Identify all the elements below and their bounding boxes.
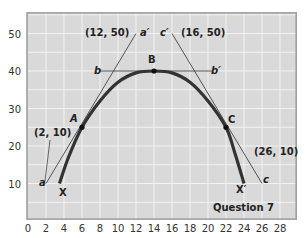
- label-a: a: [39, 177, 46, 188]
- x-tick-label: 2: [43, 223, 49, 234]
- coord-label-a: (2, 10): [34, 127, 71, 138]
- label-C: C: [228, 114, 235, 125]
- chart: 0246810121416182022242628 1020304050 (12…: [0, 0, 307, 238]
- y-axis-ticks: 1020304050: [8, 29, 21, 190]
- label-b-prime: b′: [211, 65, 221, 76]
- x-tick-label: 28: [274, 223, 287, 234]
- x-tick-label: 4: [61, 223, 67, 234]
- y-tick-label: 50: [8, 29, 21, 40]
- y-tick-label: 40: [8, 66, 21, 77]
- x-tick-label: 14: [148, 223, 161, 234]
- point-A: [79, 125, 84, 130]
- label-a-prime: a′: [140, 27, 150, 38]
- x-tick-label: 8: [97, 223, 103, 234]
- x-tick-label: 20: [202, 223, 215, 234]
- plot-area: [27, 13, 296, 219]
- coord-label-a-prime: (12, 50): [85, 27, 129, 38]
- y-tick-label: 10: [8, 179, 21, 190]
- x-tick-label: 22: [220, 223, 233, 234]
- label-b: b: [94, 65, 101, 76]
- x-tick-label: 18: [184, 223, 197, 234]
- x-tick-label: 0: [25, 223, 31, 234]
- point-C: [223, 125, 228, 130]
- x-tick-label: 24: [238, 223, 251, 234]
- label-X-prime: X′: [236, 184, 247, 195]
- x-tick-label: 10: [112, 223, 125, 234]
- label-B: B: [148, 54, 156, 65]
- label-c-prime: c′: [160, 27, 169, 38]
- question-caption: Question 7: [213, 202, 274, 213]
- x-tick-label: 26: [256, 223, 269, 234]
- y-tick-label: 30: [8, 104, 21, 115]
- point-B: [151, 68, 156, 73]
- x-tick-label: 16: [166, 223, 179, 234]
- coord-label-c: (26, 10): [254, 146, 298, 157]
- label-A: A: [69, 113, 78, 124]
- label-X: X: [59, 187, 67, 198]
- y-tick-label: 20: [8, 141, 21, 152]
- label-c: c: [263, 174, 269, 185]
- plot-background: [27, 13, 296, 219]
- x-tick-label: 12: [130, 223, 143, 234]
- coord-label-c-prime: (16, 50): [181, 27, 225, 38]
- x-tick-label: 6: [79, 223, 85, 234]
- x-axis-ticks: 0246810121416182022242628: [25, 223, 287, 234]
